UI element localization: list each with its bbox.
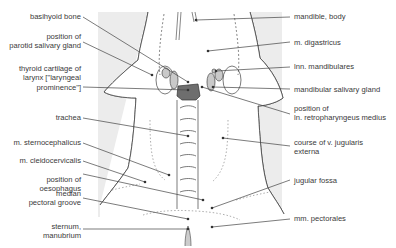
label-mandible-body: mandible, body xyxy=(294,12,346,21)
label-jugularis-externa: course of v. jugularis externa xyxy=(294,138,363,157)
label-thyroid-cartilage: thyroid cartilage of larynx ["laryngeal … xyxy=(19,64,81,92)
label-digastricus: m. digastricus xyxy=(294,38,341,47)
thyroid-cartilage xyxy=(177,84,200,100)
label-mandibular-salivary-gland: mandibular salivary gland xyxy=(294,85,380,94)
label-median-pectoral-groove: median pectoral groove xyxy=(29,189,81,208)
label-trachea: trachea xyxy=(56,113,81,122)
label-sternum-manubrium: sternum, manubrium xyxy=(43,222,81,241)
label-parotid-gland: position of parotid salivary gland xyxy=(9,32,81,51)
label-mm-pectorales: mm. pectorales xyxy=(294,214,346,223)
label-sternocephalicus: m. sternocephalicus xyxy=(13,138,81,147)
label-retropharyngeus-medius: position of ln. retropharyngeus medius xyxy=(294,104,386,123)
label-jugular-fossa: jugular fossa xyxy=(294,176,337,185)
label-lnn-mandibulares: lnn. mandibulares xyxy=(294,62,354,71)
label-cleidocervicalis: m. cleidocervicalis xyxy=(19,156,81,165)
label-basihyoid-bone: basihyoid bone xyxy=(30,12,81,21)
